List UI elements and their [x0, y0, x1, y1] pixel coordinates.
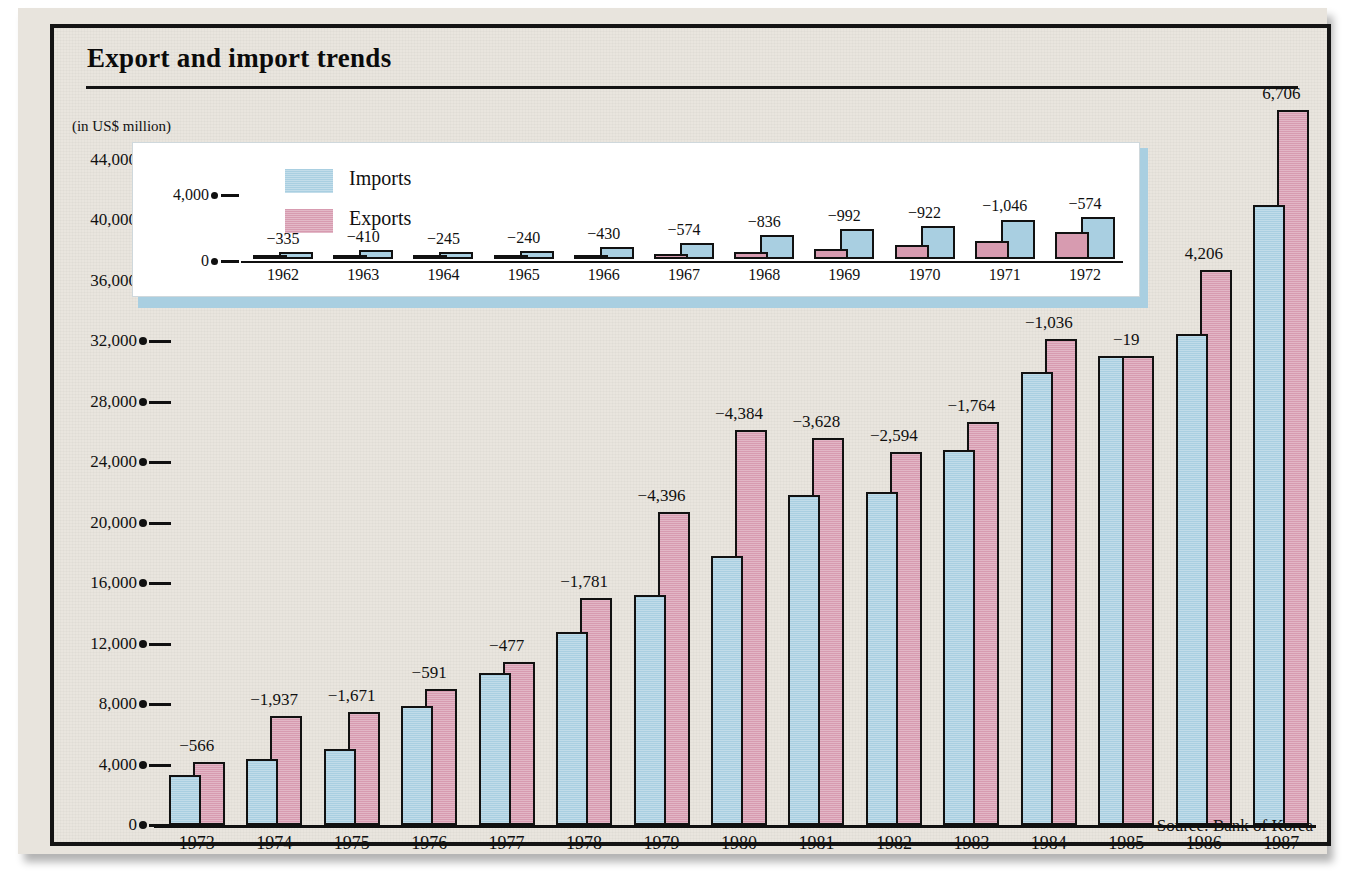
y-axis-tick-label: 28,000: [90, 392, 137, 412]
x-axis-label: 1976: [385, 833, 473, 854]
inset-x-axis-label: 1971: [959, 266, 1051, 284]
bar-exports: [1122, 356, 1154, 825]
y-axis-tick-dash: [149, 582, 171, 585]
inset-bar-exports: [413, 255, 447, 259]
y-axis-tick-label: 4,000: [99, 755, 137, 775]
inset-bar-exports: [654, 254, 688, 259]
inset-x-axis-label: 1965: [478, 266, 570, 284]
inset-bar-exports: [574, 255, 608, 259]
inset-x-axis-label: 1964: [397, 266, 489, 284]
inset-y-axis-tick-label: 4,000: [173, 186, 209, 204]
inset-bar-exports: [895, 245, 929, 259]
legend-label-imports: Imports: [349, 167, 411, 190]
x-axis-label: 1984: [1005, 833, 1093, 854]
x-axis-label: 1980: [695, 833, 783, 854]
y-axis-tick-dot: [139, 761, 147, 769]
x-axis-label: 1987: [1237, 833, 1325, 854]
bar-imports: [556, 632, 588, 825]
x-axis-label: 1981: [772, 833, 860, 854]
x-axis-label: 1983: [927, 833, 1015, 854]
inset-bar-exports: [333, 255, 367, 259]
source-note: Source: Bank of Korea: [1157, 816, 1313, 836]
balance-value-label: −1,764: [923, 396, 1019, 416]
bar-imports: [634, 595, 666, 825]
x-axis-label: 1974: [230, 833, 318, 854]
inset-bar-exports: [814, 249, 848, 259]
inset-chart: Imports Exports 04,000 19621963196419651…: [132, 142, 1140, 297]
x-axis-label: 1985: [1082, 833, 1170, 854]
y-axis-tick-dash: [149, 401, 171, 404]
y-axis-tick-dash: [149, 643, 171, 646]
inset-bar-exports: [253, 255, 287, 259]
y-axis-tick-dash: [149, 461, 171, 464]
y-axis-tick: 28,000: [54, 392, 171, 412]
inset-x-axis-label: 1966: [558, 266, 650, 284]
inset-bar-exports: [975, 241, 1009, 259]
y-axis-tick-dot: [139, 519, 147, 527]
balance-value-label: −591: [381, 663, 477, 683]
inset-bar-exports: [1055, 232, 1089, 259]
inset-x-axis-label: 1962: [237, 266, 329, 284]
y-axis-tick-label: 16,000: [90, 573, 137, 593]
y-axis-tick-dot: [139, 700, 147, 708]
inset-x-axis-label: 1970: [879, 266, 971, 284]
y-axis-tick-label: 44,000: [90, 150, 137, 170]
x-axis-label: 1973: [153, 833, 241, 854]
bar-imports: [1176, 334, 1208, 825]
inset-plot-area: Imports Exports 04,000 19621963196419651…: [133, 143, 1139, 296]
x-axis-baseline: [154, 825, 1316, 828]
y-axis-tick: 8,000: [54, 694, 171, 714]
bar-imports: [324, 749, 356, 825]
bar-imports: [1253, 205, 1285, 825]
chart-frame: Export and import trends (in US$ million…: [50, 24, 1331, 846]
inset-x-axis-label: 1963: [317, 266, 409, 284]
y-axis-tick: 32,000: [54, 331, 171, 351]
inset-balance-value-label: −574: [1037, 195, 1133, 213]
bar-imports: [1021, 372, 1053, 825]
balance-value-label: −566: [149, 736, 245, 756]
bar-imports: [479, 673, 511, 825]
balance-value-label: 6,706: [1233, 84, 1329, 104]
inset-x-axis-label: 1969: [798, 266, 890, 284]
x-axis-label: 1978: [540, 833, 628, 854]
x-axis-label: 1982: [850, 833, 938, 854]
y-axis-tick: 16,000: [54, 573, 171, 593]
balance-value-label: −19: [1078, 330, 1174, 350]
chart-plate: Export and import trends (in US$ million…: [18, 8, 1327, 854]
y-axis-tick-label: 8,000: [99, 694, 137, 714]
y-axis-tick-label: 36,000: [90, 271, 137, 291]
inset-bar-exports: [494, 255, 528, 259]
y-axis-tick-dash: [149, 764, 171, 767]
balance-value-label: 4,206: [1156, 244, 1252, 264]
x-axis-label: 1979: [618, 833, 706, 854]
balance-value-label: −4,396: [614, 486, 710, 506]
y-axis-tick: 20,000: [54, 513, 171, 533]
y-axis-tick: 24,000: [54, 452, 171, 472]
balance-value-label: −1,781: [536, 572, 632, 592]
y-axis-tick-dash: [149, 340, 171, 343]
y-axis-tick-label: 20,000: [90, 513, 137, 533]
inset-y-axis-tick-dot: [211, 258, 218, 265]
y-axis-tick-dot: [139, 337, 147, 345]
y-axis-tick-label: 32,000: [90, 331, 137, 351]
legend-label-exports: Exports: [349, 207, 411, 230]
inset-bar-exports: [734, 252, 768, 260]
y-axis-tick-label: 0: [129, 815, 138, 835]
x-axis-label: 1977: [463, 833, 551, 854]
balance-value-label: −1,671: [304, 686, 400, 706]
y-axis-tick-dot: [139, 821, 147, 829]
bar-imports: [866, 492, 898, 825]
inset-x-axis-label: 1968: [718, 266, 810, 284]
bar-imports: [246, 759, 278, 825]
inset-y-axis-tick-dot: [211, 192, 218, 199]
bar-imports: [169, 775, 201, 825]
x-axis-label: 1975: [308, 833, 396, 854]
y-axis-tick-dot: [139, 579, 147, 587]
y-axis-tick-label: 40,000: [90, 210, 137, 230]
inset-y-axis-tick-dash: [221, 194, 239, 197]
y-axis-tick-label: 12,000: [90, 634, 137, 654]
bar-imports: [711, 556, 743, 825]
bar-imports: [788, 495, 820, 825]
y-axis-tick-dash: [149, 522, 171, 525]
chart-page: Export and import trends (in US$ million…: [0, 0, 1345, 874]
